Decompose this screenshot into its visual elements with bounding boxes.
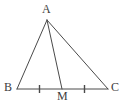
- vertex-label-a: A: [42, 3, 51, 15]
- segment-am-median: [47, 20, 62, 89]
- geometry-diagram: A B C M: [0, 0, 125, 106]
- segment-ac: [47, 20, 108, 89]
- vertex-label-m: M: [57, 90, 68, 102]
- vertex-label-b: B: [4, 81, 12, 93]
- vertex-label-c: C: [111, 81, 119, 93]
- segment-ab: [17, 20, 47, 89]
